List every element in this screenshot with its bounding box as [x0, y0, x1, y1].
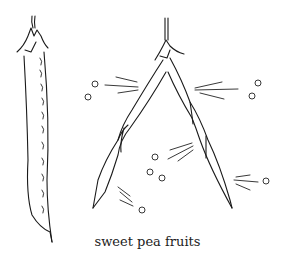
seed-marks — [40, 58, 44, 213]
figure-caption: sweet pea fruits — [0, 234, 283, 249]
closed-pod — [17, 16, 52, 242]
scattered-seeds — [85, 80, 269, 213]
motion-lines — [105, 77, 258, 206]
sweet-pea-illustration — [0, 0, 283, 266]
split-pod — [93, 18, 232, 208]
